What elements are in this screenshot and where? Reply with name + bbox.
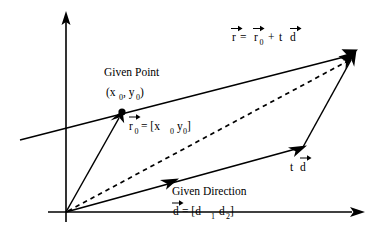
given-point-coord-close: ): [140, 86, 144, 99]
given-direction-d: d: [173, 205, 179, 217]
r0-label-subscript: 0: [135, 127, 139, 136]
diagram-canvas: r = r 0 + t d Given Point (x 0 , y 0 ) r…: [0, 0, 383, 234]
equation-t: t: [279, 31, 283, 43]
vector-line-diagram: r = r 0 + t d Given Point (x 0 , y 0 ) r…: [0, 0, 383, 234]
equation-r0-base: r: [254, 31, 258, 43]
equation-r-vector-bar: [231, 27, 241, 30]
given-point-dot: [118, 108, 125, 115]
r0-label-close-bracket: ]: [187, 120, 191, 132]
given-direction-close-bracket: ]: [230, 205, 234, 217]
equation-r0-subscript: 0: [260, 38, 264, 47]
td-label-d: d: [300, 161, 306, 173]
equation-plus: +: [268, 31, 275, 43]
equation-r: r: [232, 31, 236, 43]
given-direction-title: Given Direction: [172, 185, 247, 197]
given-direction-d2: d: [219, 205, 225, 217]
given-point-label: Given Point (x 0 , y 0 ): [104, 66, 160, 102]
equation-d-vector-bar: [290, 27, 300, 30]
direction-vector-line: [66, 147, 303, 212]
x-axis-arrowhead: [350, 207, 365, 217]
r0-label-equals-bracket: = [x: [141, 120, 160, 132]
given-point-coord-comma: , y: [123, 86, 135, 99]
given-direction-equals-bracket: = [d: [182, 205, 201, 217]
td-label: t d: [290, 156, 310, 173]
given-direction-label: Given Direction d = [d 1 d 2 ]: [172, 185, 247, 221]
equation-label: r = r 0 + t d: [231, 27, 300, 47]
td-vector-group: [303, 50, 357, 147]
r0-label-vector-bar: [129, 115, 139, 118]
given-direction-sub-1: 1: [211, 212, 215, 221]
r0-label-base: r: [129, 120, 133, 132]
given-point-title: Given Point: [104, 66, 160, 78]
td-label-t: t: [290, 161, 294, 173]
r0-label: r 0 = [x 0 y 0 ]: [129, 115, 191, 135]
td-label-vector-bar: [300, 156, 310, 159]
r0-label-sub-x: 0: [170, 127, 174, 136]
given-point-coord-open: (x: [106, 86, 116, 99]
equation-equals: =: [240, 31, 247, 43]
equation-d: d: [290, 31, 296, 43]
equation-r0-vector-bar: [253, 27, 263, 30]
direction-vector-group: [66, 146, 307, 213]
